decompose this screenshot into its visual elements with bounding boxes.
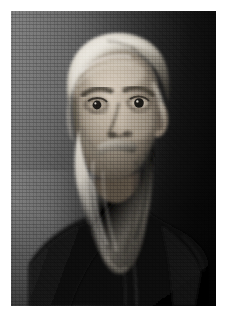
portrait-subject bbox=[11, 11, 216, 306]
vintage-portrait-photograph bbox=[11, 11, 216, 306]
page-canvas bbox=[0, 0, 226, 322]
